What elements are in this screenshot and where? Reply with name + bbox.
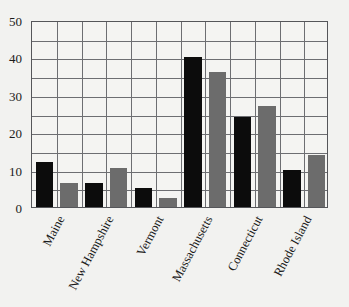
bar [135,188,152,207]
x-axis-tick-label: Rhode Island [272,214,314,278]
plot-area [31,21,328,208]
y-axis-tick-label: 50 [0,15,27,28]
y-axis-tick-label: 10 [0,164,27,177]
bar [85,183,102,207]
x-axis-tick-label: New Hampshire [67,214,116,292]
bars-layer [32,22,327,207]
y-axis-tick-label: 30 [0,89,27,102]
bar [283,170,300,207]
bar [159,198,176,207]
bar [184,57,201,207]
y-axis-tick-label: 40 [0,52,27,65]
x-axis-tick-label: Maine [41,214,67,248]
bar [209,72,226,207]
y-axis-tick-label: 20 [0,127,27,140]
x-axis: MaineNew HampshireVermontMassachusettsCo… [31,208,328,307]
bar [234,117,251,207]
bar [60,183,77,207]
y-axis-tick-label: 0 [0,202,27,215]
bar [308,155,325,207]
x-axis-tick-label: Connecticut [225,214,264,273]
y-axis: 01020304050 [0,0,27,307]
bar [258,106,275,207]
bar-chart: 01020304050 MaineNew HampshireVermontMas… [0,0,349,307]
x-axis-tick-label: Massachusetts [170,214,215,284]
bar [36,162,53,207]
bar [110,168,127,207]
x-axis-tick-label: Vermont [135,214,166,258]
